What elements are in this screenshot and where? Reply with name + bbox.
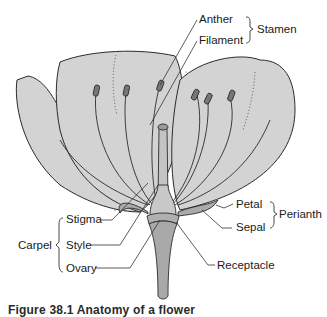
label-style: Style (66, 240, 92, 252)
figure-caption: Figure 38.1 Anatomy of a flower (8, 303, 195, 317)
label-ovary: Ovary (66, 263, 97, 275)
label-filament: Filament (199, 35, 243, 47)
stigma (158, 124, 168, 130)
label-carpel: Carpel (18, 240, 52, 252)
label-stigma: Stigma (66, 214, 102, 226)
label-receptacle: Receptacle (217, 260, 275, 272)
petal-right (172, 57, 295, 210)
label-petal: Petal (236, 199, 262, 211)
label-stamen: Stamen (257, 24, 297, 36)
label-anther: Anther (199, 14, 233, 26)
stem (149, 221, 177, 299)
label-sepal: Sepal (236, 222, 265, 234)
label-perianth: Perianth (279, 209, 322, 221)
